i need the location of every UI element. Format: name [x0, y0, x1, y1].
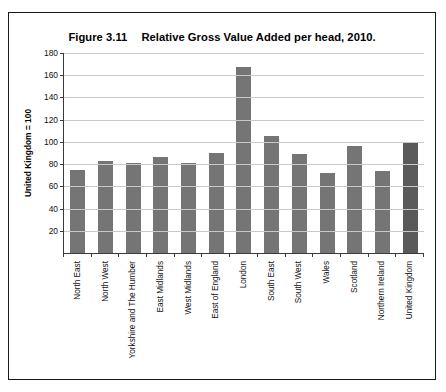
bar-slot — [341, 53, 369, 253]
y-axis-tick-labels: 20406080100120140160180 — [35, 53, 61, 253]
x-category-label: East Midlands — [155, 261, 164, 312]
x-label-slot: North West — [91, 259, 119, 367]
y-axis-title: United Kingdom = 100 — [21, 53, 35, 253]
plot-area — [63, 53, 424, 254]
x-category-label: South East — [266, 261, 275, 301]
figure-box: Figure 3.11Relative Gross Value Added pe… — [8, 12, 436, 380]
y-tick-mark — [60, 186, 64, 187]
x-tick-mark — [395, 253, 396, 257]
gridline — [64, 97, 424, 98]
gridline — [64, 120, 424, 121]
bar — [236, 67, 251, 253]
y-tick-mark — [60, 209, 64, 210]
x-label-slot: South East — [257, 259, 285, 367]
figure-caption: Relative Gross Value Added per head, 201… — [141, 31, 375, 43]
x-label-slot: Yorkshire and The Humber — [118, 259, 146, 367]
bar-slot — [258, 53, 286, 253]
bar — [264, 136, 279, 253]
bar-slot — [119, 53, 147, 253]
gridline — [64, 209, 424, 210]
x-tick-mark — [368, 253, 369, 257]
y-tick-label: 120 — [44, 115, 58, 125]
y-tick-mark — [60, 97, 64, 98]
gridline — [64, 53, 424, 54]
bar — [403, 143, 418, 253]
x-label-slot: Northern Ireland — [368, 259, 396, 367]
x-label-slot: Wales — [312, 259, 340, 367]
bar-slot — [147, 53, 175, 253]
x-category-label: Yorkshire and The Humber — [128, 261, 137, 358]
y-tick-mark — [60, 142, 64, 143]
x-label-slot: United Kingdom — [395, 259, 423, 367]
y-tick-label: 40 — [49, 204, 58, 214]
bar-series — [64, 53, 424, 253]
x-category-label: London — [238, 261, 247, 288]
figure-title: Figure 3.11Relative Gross Value Added pe… — [9, 31, 435, 43]
bar — [320, 173, 335, 253]
x-label-slot: North East — [63, 259, 91, 367]
x-tick-mark — [63, 253, 64, 257]
x-category-label: South West — [294, 261, 303, 303]
bar-slot — [230, 53, 258, 253]
chart-area: United Kingdom = 100 2040608010012014016… — [21, 53, 425, 369]
bar-slot — [202, 53, 230, 253]
y-tick-mark — [60, 231, 64, 232]
bar-slot — [92, 53, 120, 253]
y-tick-label: 20 — [49, 226, 58, 236]
figure-number: Figure 3.11 — [68, 31, 127, 43]
bar — [375, 171, 390, 253]
y-tick-mark — [60, 75, 64, 76]
x-tick-mark — [257, 253, 258, 257]
gridline — [64, 75, 424, 76]
y-tick-mark — [60, 164, 64, 165]
x-tick-mark — [174, 253, 175, 257]
gridline — [64, 164, 424, 165]
gridline — [64, 231, 424, 232]
x-tick-mark — [340, 253, 341, 257]
x-tick-mark — [91, 253, 92, 257]
x-tick-mark — [285, 253, 286, 257]
gridline — [64, 186, 424, 187]
x-tick-mark — [118, 253, 119, 257]
x-axis-category-labels: North EastNorth WestYorkshire and The Hu… — [63, 259, 423, 367]
bar-slot — [64, 53, 92, 253]
bar — [292, 154, 307, 253]
bar-slot — [313, 53, 341, 253]
x-category-label: United Kingdom — [405, 261, 414, 319]
scan-artifact-top-text — [180, 0, 446, 10]
x-category-label: Wales — [322, 261, 331, 283]
x-category-label: West Midlands — [183, 261, 192, 315]
x-label-slot: East Midlands — [146, 259, 174, 367]
y-tick-label: 160 — [44, 70, 58, 80]
bar-slot — [369, 53, 397, 253]
x-tick-mark — [146, 253, 147, 257]
bar — [98, 161, 113, 253]
x-label-slot: East of England — [201, 259, 229, 367]
x-category-label: East of England — [211, 261, 220, 319]
bar-slot — [175, 53, 203, 253]
bar — [70, 170, 85, 253]
bar — [153, 157, 168, 253]
gridline — [64, 142, 424, 143]
y-axis-title-label: United Kingdom = 100 — [23, 109, 33, 197]
x-axis-tick-marks — [63, 253, 423, 258]
x-label-slot: Scotland — [340, 259, 368, 367]
y-tick-label: 80 — [49, 159, 58, 169]
x-label-slot: London — [229, 259, 257, 367]
bar-slot — [286, 53, 314, 253]
y-tick-label: 140 — [44, 92, 58, 102]
x-tick-mark — [423, 253, 424, 257]
x-category-label: Scotland — [349, 261, 358, 293]
x-tick-mark — [201, 253, 202, 257]
y-tick-label: 100 — [44, 137, 58, 147]
bar-slot — [396, 53, 424, 253]
bar — [347, 146, 362, 253]
x-category-label: North West — [100, 261, 109, 302]
y-tick-mark — [60, 120, 64, 121]
x-tick-mark — [312, 253, 313, 257]
x-tick-mark — [229, 253, 230, 257]
x-label-slot: South West — [285, 259, 313, 367]
x-category-label: Northern Ireland — [377, 261, 386, 320]
y-tick-label: 60 — [49, 181, 58, 191]
x-category-label: North East — [72, 261, 81, 300]
